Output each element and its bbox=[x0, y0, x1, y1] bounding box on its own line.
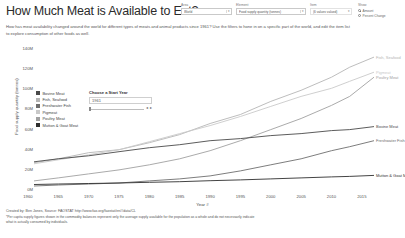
legend-item-label: Pigmeat bbox=[42, 110, 57, 115]
y-axis-tick-label: 100M bbox=[3, 86, 33, 91]
series-end-label: Fish, Seafood bbox=[376, 55, 401, 60]
y-axis-tick-label: 40M bbox=[3, 147, 33, 152]
radio-label-amount: Amount bbox=[363, 9, 374, 13]
x-axis-tick-label: 2000 bbox=[266, 194, 275, 199]
dashboard-description: How has meat availability changed around… bbox=[6, 24, 350, 37]
dashboard-footer: Created by: Ben Jones, Source: FAOSTAT h… bbox=[6, 209, 398, 225]
filter-item-label: Item bbox=[310, 3, 352, 7]
legend-swatch-icon bbox=[36, 98, 40, 102]
series-end-label: Freshwater Fish bbox=[376, 138, 405, 143]
filter-area-label: Area bbox=[181, 3, 232, 7]
filter-area-value: World bbox=[184, 10, 226, 14]
x-axis-title: Year # bbox=[0, 202, 405, 207]
filter-item-value: (6 values valued) bbox=[313, 10, 347, 14]
x-axis-tick-label: 1965 bbox=[54, 194, 63, 199]
x-axis-tick-label: 1970 bbox=[84, 194, 93, 199]
x-axis-tick-label: 2015 bbox=[357, 194, 366, 199]
slider-track[interactable] bbox=[89, 109, 144, 110]
y-axis-ticks: 0M20M40M60M80M100M120M140M bbox=[0, 44, 33, 192]
y-axis-tick-label: 140M bbox=[3, 46, 33, 51]
legend-item-label: Fish, Seafood bbox=[42, 97, 67, 102]
x-axis-tick-label: 1960 bbox=[23, 194, 32, 199]
chart-legend: Bovine MeatFish, SeafoodFreshwater FishP… bbox=[36, 90, 78, 128]
legend-swatch-icon bbox=[36, 104, 40, 108]
filter-item-dropdown[interactable]: (6 values valued) ▾ bbox=[310, 8, 352, 15]
x-axis-tick-label: 2010 bbox=[327, 194, 336, 199]
start-year-input[interactable]: 1961 bbox=[89, 97, 152, 105]
legend-item-label: Freshwater Fish bbox=[42, 103, 71, 108]
line-chart-svg bbox=[34, 44, 374, 190]
radio-icon-percent-change bbox=[358, 14, 361, 17]
start-year-title: Choose a Start Year bbox=[89, 90, 152, 95]
chevron-down-icon: ▾ bbox=[300, 10, 304, 13]
filter-element-label: Element bbox=[236, 3, 306, 7]
series-end-label: Bovine Meat bbox=[376, 124, 398, 129]
filter-element-dropdown[interactable]: Food supply quantity (tonnes) ▾ bbox=[236, 8, 306, 15]
legend-swatch-icon bbox=[36, 117, 40, 121]
dashboard: How Much Meat is Available to Eat? Area … bbox=[0, 0, 405, 238]
start-year-slider[interactable]: ◂ ▸ bbox=[89, 106, 152, 112]
slider-handle[interactable] bbox=[89, 107, 91, 111]
legend-item-label: Bovine Meat bbox=[42, 91, 64, 96]
series-end-label: Poultry Meat bbox=[376, 75, 398, 80]
chart-line-fish-seafood bbox=[34, 57, 374, 163]
footer-note-line2: what is actually consumed by individuals… bbox=[6, 220, 398, 225]
chevron-down-icon: ▾ bbox=[347, 10, 350, 13]
x-axis-tick-label: 1975 bbox=[114, 194, 123, 199]
dashboard-header: How Much Meat is Available to Eat? Area … bbox=[0, 0, 405, 22]
chart-line-poultry-meat bbox=[34, 77, 374, 181]
x-axis-tick-label: 1985 bbox=[175, 194, 184, 199]
filter-element-value: Food supply quantity (tonnes) bbox=[239, 10, 300, 14]
y-axis-tick-label: 20M bbox=[3, 167, 33, 172]
chart-line-bovine-meat bbox=[34, 127, 374, 162]
show-radio-group: Show Amount Percent Change bbox=[358, 3, 403, 18]
y-axis-tick-label: 120M bbox=[3, 66, 33, 71]
slider-decrement-button[interactable]: ◂ bbox=[146, 107, 148, 111]
x-axis-tick-label: 2005 bbox=[296, 194, 305, 199]
legend-item[interactable]: Mutton & Goat Meat bbox=[36, 122, 78, 128]
chart-line-freshwater-fish bbox=[34, 141, 374, 186]
slider-increment-button[interactable]: ▸ bbox=[150, 107, 152, 111]
chart-line-pigmeat bbox=[34, 72, 374, 164]
y-axis-tick-label: 80M bbox=[3, 106, 33, 111]
legend-swatch-icon bbox=[36, 110, 40, 114]
legend-item-label: Mutton & Goat Meat bbox=[42, 123, 78, 128]
x-axis-tick-label: 1995 bbox=[236, 194, 245, 199]
page-title: How Much Meat is Available to Eat? bbox=[6, 4, 198, 18]
series-end-label: Mutton & Goat Meat bbox=[376, 173, 405, 178]
start-year-control: Choose a Start Year 1961 ◂ ▸ bbox=[89, 90, 152, 112]
footer-credit: Created by: Ben Jones, Source: FAOSTAT h… bbox=[6, 209, 398, 214]
chart-container: Food supply quantity (tonnes) 0M20M40M60… bbox=[0, 44, 405, 206]
filter-area: Area World ▾ bbox=[181, 3, 232, 15]
x-axis-tick-label: 1980 bbox=[145, 194, 154, 199]
filter-area-dropdown[interactable]: World ▾ bbox=[181, 8, 232, 15]
start-year-value: 1961 bbox=[92, 98, 101, 103]
show-group-label: Show bbox=[358, 3, 403, 7]
legend-swatch-icon bbox=[36, 123, 40, 127]
legend-item-label: Poultry Meat bbox=[42, 116, 64, 121]
filter-element: Element Food supply quantity (tonnes) ▾ bbox=[236, 3, 306, 15]
y-axis-tick-label: 0M bbox=[3, 187, 33, 192]
radio-option-percent-change[interactable]: Percent Change bbox=[358, 13, 403, 18]
plot-area bbox=[34, 44, 374, 190]
y-axis-tick-label: 60M bbox=[3, 127, 33, 132]
footer-note-line1: *Per capita supply figures shown in the … bbox=[6, 215, 398, 220]
filter-item: Item (6 values valued) ▾ bbox=[310, 3, 352, 15]
chevron-down-icon: ▾ bbox=[226, 10, 230, 13]
x-axis-tick-label: 1990 bbox=[205, 194, 214, 199]
radio-icon-amount bbox=[358, 9, 361, 12]
radio-label-percent-change: Percent Change bbox=[363, 14, 386, 18]
legend-swatch-icon bbox=[36, 91, 40, 95]
